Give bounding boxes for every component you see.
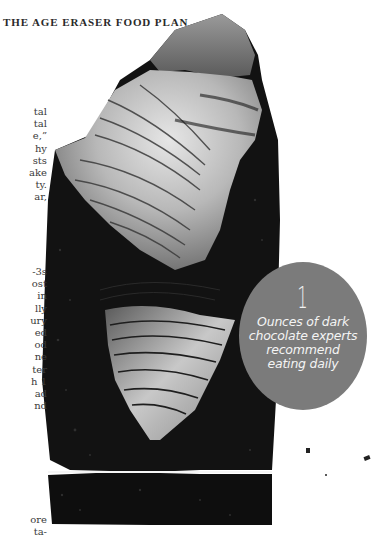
chocolate-reflection <box>48 472 272 525</box>
text-line: hy <box>29 143 47 155</box>
text-line: ter <box>30 364 47 376</box>
body-paragraph-3: ore ta- <box>30 514 47 538</box>
text-line: sts <box>29 155 47 167</box>
stat-caption-line: Ounces of dark <box>249 315 358 329</box>
stat-caption: Ounces of dark chocolate experts recomme… <box>249 315 358 371</box>
stat-callout: 1 Ounces of dark chocolate experts recom… <box>239 262 367 410</box>
text-line: ty. <box>29 179 47 191</box>
text-line: tal <box>29 118 47 130</box>
text-line: ost <box>30 278 47 290</box>
text-line: nd <box>30 400 47 412</box>
text-line: in <box>30 290 47 302</box>
text-line: ar, <box>29 191 47 203</box>
text-line: ury <box>30 315 47 327</box>
running-head: THE AGE ERASER FOOD PLAN <box>3 16 188 28</box>
text-line: ed <box>30 327 47 339</box>
stat-caption-line: recommend <box>249 343 358 357</box>
text-line: -3s <box>30 266 47 278</box>
text-line: od <box>30 339 47 351</box>
text-line: h 1 <box>30 376 47 388</box>
body-paragraph-2: -3s ost in lly ury ed od ne ter h 1 ad n… <box>30 266 47 412</box>
text-line: e,” <box>29 130 47 142</box>
stat-caption-line: chocolate experts <box>249 329 358 343</box>
stat-number: 1 <box>298 282 309 314</box>
text-line: ad <box>30 388 47 400</box>
text-line: tal <box>29 106 47 118</box>
text-line: ta- <box>30 526 47 538</box>
stat-caption-line: eating daily <box>249 357 358 371</box>
debris-mark <box>306 448 310 453</box>
text-line: ne <box>30 351 47 363</box>
debris-mark <box>325 474 327 476</box>
text-line: ore <box>30 514 47 526</box>
body-paragraph-1: tal tal e,” hy sts ake ty. ar, <box>29 106 47 204</box>
text-line: ake <box>29 167 47 179</box>
text-line: lly <box>30 303 47 315</box>
